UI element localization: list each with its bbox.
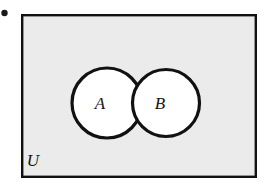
set-a-label: A [94,94,106,113]
venn-diagram-canvas: A B U [0,0,273,187]
set-b-label: B [155,94,166,113]
venn-diagram-figure: A B U [0,0,273,187]
universal-set-label: U [27,151,41,170]
set-b-circle [133,70,200,137]
list-bullet-icon [1,10,7,16]
